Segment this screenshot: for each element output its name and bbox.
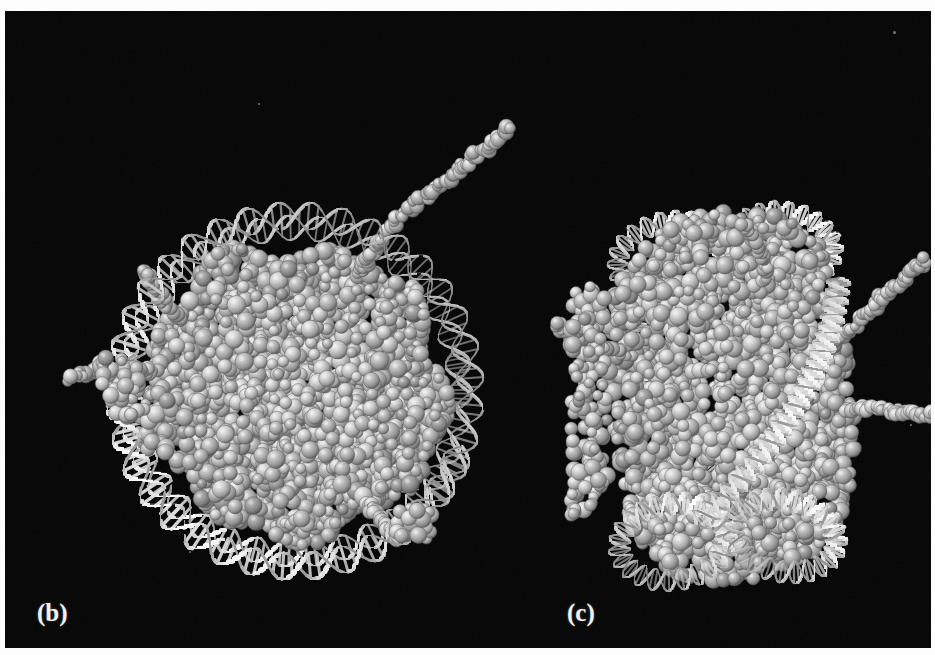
micrograph-plate: (b) (c) — [5, 11, 931, 648]
speck-bottom-left — [189, 551, 191, 553]
film-grain-overlay — [5, 11, 931, 648]
speck-right — [910, 424, 912, 426]
panel-label-b: (b) — [37, 599, 68, 627]
structure-canvas — [5, 11, 931, 648]
panel-label-c: (c) — [567, 599, 595, 627]
figure-root: (b) (c) — [0, 0, 935, 655]
speck-mid-left — [258, 103, 260, 105]
speck-top-right — [893, 31, 896, 34]
